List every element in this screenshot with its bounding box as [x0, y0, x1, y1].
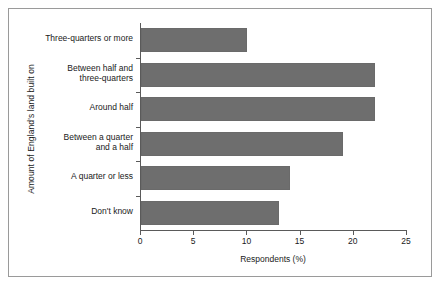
x-axis-title: Respondents (%) — [140, 254, 406, 264]
x-axis-tick — [246, 231, 247, 235]
bar-row: Three-quarters or more — [140, 23, 406, 58]
category-label-line: three-quarters — [0, 73, 133, 84]
x-axis-tick — [300, 231, 301, 235]
bar[interactable] — [141, 201, 279, 225]
x-axis-tick — [406, 231, 407, 235]
bar[interactable] — [141, 97, 375, 121]
category-label-line: A quarter or less — [0, 171, 133, 182]
chart-figure-frame: Amount of England's land built on Three-… — [8, 8, 432, 277]
x-axis-line — [140, 230, 407, 231]
x-axis-tick — [140, 231, 141, 235]
y-axis-title: Amount of England's land built on — [26, 29, 36, 229]
category-label-line: Between half and — [0, 63, 133, 74]
bar-row: Around half — [140, 92, 406, 127]
category-label-line: Three-quarters or more — [0, 33, 133, 44]
category-label: Don't know — [0, 206, 133, 217]
bar[interactable] — [141, 166, 290, 190]
x-axis-tick-label: 0 — [125, 236, 155, 246]
bar-row: Don't know — [140, 196, 406, 231]
bar-row: A quarter or less — [140, 161, 406, 196]
x-axis-tick — [193, 231, 194, 235]
x-axis-tick-label: 15 — [285, 236, 315, 246]
plot-area: Three-quarters or more Between half and … — [140, 23, 406, 230]
x-axis-tick-label: 5 — [178, 236, 208, 246]
category-label-line: Around half — [0, 102, 133, 113]
x-axis-tick-label: 25 — [391, 236, 421, 246]
bar-row: Between half and three-quarters — [140, 58, 406, 93]
bar[interactable] — [141, 63, 375, 87]
bar[interactable] — [141, 28, 247, 52]
category-label: Around half — [0, 102, 133, 113]
category-label: Between half and three-quarters — [0, 63, 133, 84]
x-axis-tick-label: 10 — [231, 236, 261, 246]
category-label: Three-quarters or more — [0, 33, 133, 44]
bar-row: Between a quarter and a half — [140, 127, 406, 162]
category-label: A quarter or less — [0, 171, 133, 182]
x-axis-tick — [353, 231, 354, 235]
category-label-line: and a half — [0, 142, 133, 153]
category-label-line: Don't know — [0, 206, 133, 217]
x-axis-tick-label: 20 — [338, 236, 368, 246]
bar[interactable] — [141, 132, 343, 156]
category-label: Between a quarter and a half — [0, 132, 133, 153]
category-label-line: Between a quarter — [0, 132, 133, 143]
